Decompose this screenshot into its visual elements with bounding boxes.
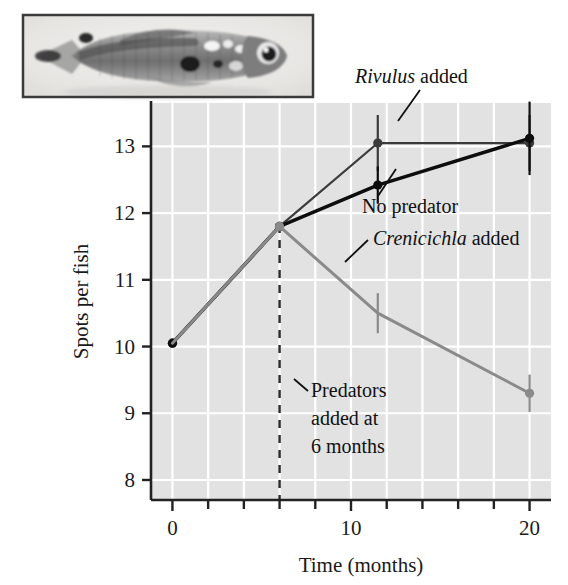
x-tick-label: 10 bbox=[341, 516, 362, 540]
data-point bbox=[525, 389, 534, 398]
highlight-1 bbox=[204, 41, 220, 51]
data-point bbox=[525, 134, 534, 143]
x-tick-label: 0 bbox=[167, 516, 178, 540]
genus-name-italic: Crenicichla bbox=[373, 227, 467, 249]
y-tick-label: 10 bbox=[114, 335, 135, 359]
y-tick-label: 9 bbox=[125, 401, 136, 425]
spot-2 bbox=[180, 56, 200, 72]
data-point bbox=[373, 180, 382, 189]
chart-plot: 891011121301020Time (months)Spots per fi… bbox=[69, 65, 551, 577]
figure-container: 891011121301020Time (months)Spots per fi… bbox=[0, 0, 568, 585]
x-tick-label: 20 bbox=[519, 516, 540, 540]
y-tick-label: 12 bbox=[114, 201, 135, 225]
no-predator-annotation: No predator bbox=[362, 195, 458, 218]
annotation-plain-text: No predator bbox=[362, 195, 458, 218]
y-tick-label: 8 bbox=[125, 468, 136, 492]
spot-3 bbox=[213, 60, 223, 68]
crenicichla-annotation: Crenicichla added bbox=[373, 227, 519, 249]
predators-added-label-line: 6 months bbox=[311, 435, 385, 457]
spot-1 bbox=[79, 33, 93, 43]
guppy-spots-figure: 891011121301020Time (months)Spots per fi… bbox=[0, 0, 568, 585]
y-axis-title: Spots per fish bbox=[69, 243, 93, 359]
y-tick-label: 11 bbox=[115, 268, 135, 292]
highlight-4 bbox=[229, 61, 243, 71]
eye-glint bbox=[264, 48, 269, 53]
y-tick-label: 13 bbox=[114, 134, 135, 158]
annotation-plain-text: added bbox=[467, 227, 520, 249]
eye-pupil bbox=[262, 47, 277, 62]
data-point bbox=[275, 222, 284, 231]
predators-added-label-line: Predators bbox=[311, 379, 387, 401]
annotation-plain-text: added bbox=[415, 65, 468, 87]
data-point bbox=[373, 138, 382, 147]
rivulus-annotation: Rivulus added bbox=[354, 65, 468, 87]
tail-spot bbox=[35, 50, 61, 62]
predators-added-label-line: added at bbox=[311, 407, 379, 429]
highlight-2 bbox=[223, 40, 233, 48]
guppy-photo-inset bbox=[23, 15, 313, 99]
x-axis-title: Time (months) bbox=[299, 553, 424, 577]
genus-name-italic: Rivulus bbox=[354, 65, 415, 87]
